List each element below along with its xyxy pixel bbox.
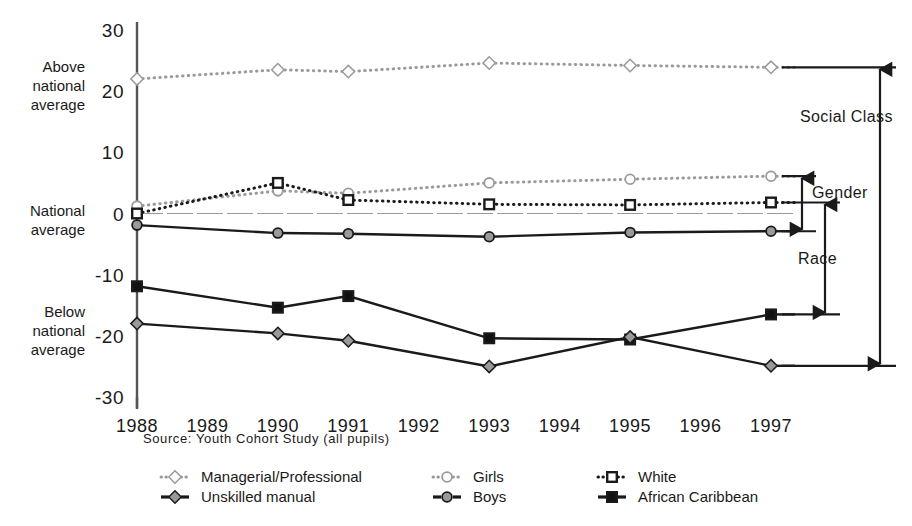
- data-point-marker: [132, 281, 142, 291]
- series-line: [137, 286, 771, 339]
- data-point-marker: [625, 200, 635, 210]
- x-tick-label: 1995: [609, 416, 651, 436]
- series-line: [137, 176, 771, 206]
- legend-item-label: Managerial/Professional: [201, 468, 362, 485]
- gap-annotation-label: Gender: [812, 184, 868, 201]
- data-point-marker: [766, 310, 776, 320]
- data-point-marker: [442, 492, 452, 502]
- data-point-marker: [344, 291, 354, 301]
- data-point-marker: [344, 195, 354, 205]
- data-point-marker: [607, 492, 617, 502]
- data-point-marker: [765, 360, 777, 372]
- x-tick-label: 1992: [398, 416, 440, 436]
- data-point-marker: [766, 226, 776, 236]
- legend-item-label: Unskilled manual: [201, 488, 315, 505]
- data-point-marker: [483, 360, 495, 372]
- data-point-marker: [484, 200, 494, 210]
- gap-annotation-label: Race: [798, 250, 837, 267]
- y-tick-label: 20: [102, 81, 124, 102]
- data-point-marker: [483, 57, 495, 69]
- legend-item-label: White: [638, 468, 676, 485]
- y-tick-labels: 3020100-10-20-30: [95, 20, 124, 408]
- data-point-marker: [342, 335, 354, 347]
- data-point-marker: [131, 73, 143, 85]
- y-region-label: average: [31, 341, 85, 358]
- series-line: [137, 63, 771, 79]
- data-point-marker: [625, 228, 635, 238]
- data-point-marker: [273, 303, 283, 313]
- data-point-marker: [132, 209, 142, 219]
- data-point-marker: [624, 59, 636, 71]
- gap-annotation-label: Social Class: [800, 108, 893, 125]
- y-tick-label: 0: [113, 204, 124, 225]
- chart-figure: 3020100-10-20-30 AbovenationalaverageNat…: [0, 0, 912, 526]
- y-tick-label: -20: [95, 326, 124, 347]
- y-tick-label: -10: [95, 265, 124, 286]
- data-point-marker: [273, 178, 283, 188]
- legend-item[interactable]: African Caribbean: [598, 488, 758, 505]
- line-chart-canvas: 3020100-10-20-30 AbovenationalaverageNat…: [0, 0, 912, 526]
- legend-item[interactable]: Boys: [433, 488, 506, 505]
- series-line: [137, 225, 771, 237]
- data-point-marker: [484, 333, 494, 343]
- data-point-marker: [484, 232, 494, 242]
- y-region-label: Above: [42, 58, 85, 75]
- data-point-marker: [132, 220, 142, 230]
- data-point-marker: [273, 228, 283, 238]
- y-tick-label: -30: [95, 387, 124, 408]
- x-tick-label: 1996: [680, 416, 722, 436]
- data-point-marker: [131, 317, 143, 329]
- source-caption: Source: Youth Cohort Study (all pupils): [143, 431, 390, 446]
- data-point-marker: [169, 471, 181, 483]
- legend-item[interactable]: Unskilled manual: [161, 488, 315, 505]
- gap-annotations: Social ClassGenderRace: [782, 67, 896, 365]
- data-point-marker: [625, 174, 635, 184]
- y-region-label: Below: [44, 303, 85, 320]
- chart-legend: Managerial/ProfessionalUnskilled manualG…: [161, 468, 758, 505]
- series-lines: [137, 63, 795, 366]
- y-region-label: average: [31, 221, 85, 238]
- series-markers: [131, 57, 777, 373]
- data-point-marker: [607, 472, 617, 482]
- data-point-marker: [442, 472, 452, 482]
- y-region-label: national: [32, 322, 85, 339]
- data-point-marker: [343, 229, 353, 239]
- x-axis-ticks: [137, 214, 795, 409]
- data-point-marker: [765, 61, 777, 73]
- x-tick-label: 1997: [750, 416, 792, 436]
- series-line: [137, 324, 771, 367]
- legend-item[interactable]: White: [598, 468, 676, 485]
- y-region-label: national: [32, 77, 85, 94]
- legend-item-label: Girls: [473, 468, 504, 485]
- x-tick-label: 1993: [468, 416, 510, 436]
- data-point-marker: [766, 198, 776, 208]
- y-axis-region-labels: AbovenationalaverageNationalaverageBelow…: [30, 58, 85, 358]
- legend-item[interactable]: Managerial/Professional: [161, 468, 362, 485]
- data-point-marker: [272, 64, 284, 76]
- data-point-marker: [766, 171, 776, 181]
- y-region-label: average: [31, 96, 85, 113]
- data-point-marker: [484, 178, 494, 188]
- y-region-label: National: [30, 202, 85, 219]
- legend-item-label: Boys: [473, 488, 506, 505]
- y-tick-label: 30: [102, 20, 124, 41]
- y-tick-label: 10: [102, 142, 124, 163]
- data-point-marker: [272, 327, 284, 339]
- legend-item[interactable]: Girls: [433, 468, 504, 485]
- x-tick-label: 1994: [539, 416, 581, 436]
- legend-item-label: African Caribbean: [638, 488, 758, 505]
- series-line: [137, 183, 771, 214]
- data-point-marker: [169, 491, 181, 503]
- data-point-marker: [342, 65, 354, 77]
